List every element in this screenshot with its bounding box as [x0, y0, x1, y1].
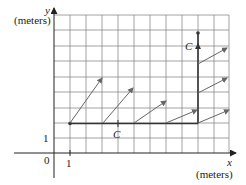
vector-arrow [198, 78, 227, 93]
grid [54, 15, 229, 153]
line-integral-diagram: y (meters) x (meters) 0 1 1 C C [0, 0, 246, 185]
vector-arrow [198, 110, 229, 123]
y-tick-label: 1 [43, 132, 49, 144]
x-axis-unit-label: (meters) [196, 168, 233, 181]
vector-arrow [166, 110, 197, 123]
x-axis-variable-label: x [226, 156, 232, 168]
curve-c-label-bottom: C [113, 128, 121, 140]
vector-arrow [198, 48, 227, 64]
origin-label: 0 [44, 154, 50, 166]
y-axis-unit-label: (meters) [14, 14, 51, 27]
curve-c-label-top: C [185, 40, 193, 52]
vector-field [70, 48, 229, 123]
curve-end-point [196, 31, 200, 35]
x-tick-label: 1 [66, 157, 72, 169]
